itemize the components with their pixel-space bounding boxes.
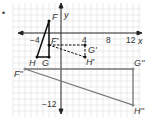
axes <box>18 3 142 114</box>
label-H-prime: H' <box>86 57 94 67</box>
label-F: F <box>52 12 58 22</box>
tick-4: 4 <box>82 35 87 45</box>
tick-neg12: −12 <box>42 99 57 109</box>
coordinate-plane: • y x −4 4 8 12 −12 F G H F' G' H' F'' G… <box>0 0 149 127</box>
label-H: H <box>29 58 36 68</box>
tick-neg4: −4 <box>30 35 40 45</box>
x-axis-label: x <box>137 36 143 46</box>
tick-8: 8 <box>106 35 111 45</box>
label-F-double-prime: F'' <box>14 69 23 79</box>
y-axis-label: y <box>63 10 69 20</box>
label-G: G <box>42 58 49 68</box>
tick-12: 12 <box>126 35 136 45</box>
label-F-prime: F' <box>51 36 58 46</box>
label-G-double-prime: G'' <box>134 58 145 68</box>
problem-bullet: • <box>2 8 5 18</box>
label-G-prime: G' <box>88 45 97 55</box>
label-H-double-prime: H'' <box>134 106 144 116</box>
